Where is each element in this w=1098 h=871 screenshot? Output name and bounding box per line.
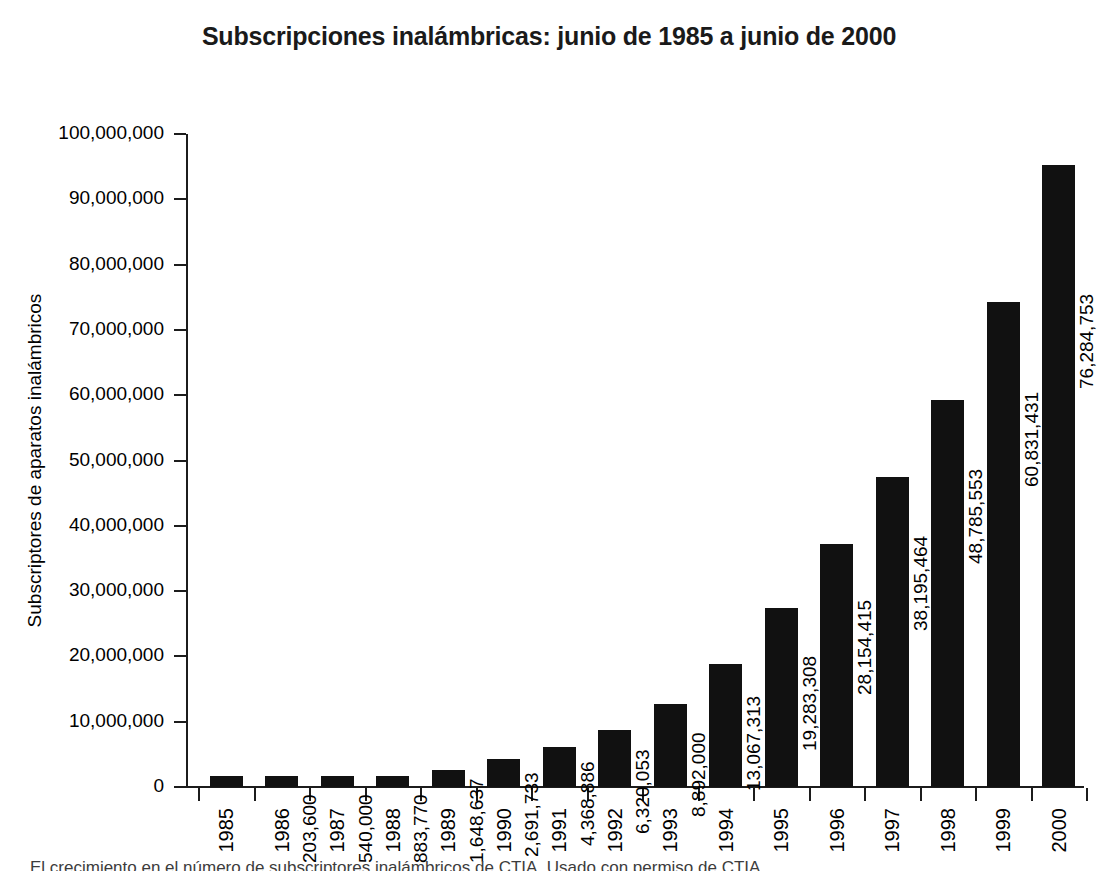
x-axis-tick bbox=[198, 788, 200, 801]
bar-value-label: 48,785,553 bbox=[885, 463, 899, 464]
y-axis-tick bbox=[174, 394, 186, 396]
bar bbox=[265, 776, 298, 787]
y-axis-tick bbox=[174, 590, 186, 592]
chart-figure: Subscripciones inalámbricas: junio de 19… bbox=[0, 0, 1098, 871]
y-axis-tick bbox=[174, 786, 186, 788]
bar-value-label: 883,770 bbox=[330, 762, 344, 763]
bar bbox=[654, 704, 687, 787]
x-axis-tick bbox=[1031, 788, 1033, 801]
y-axis-tick bbox=[174, 721, 186, 723]
bar-value-label: 97,835,925 bbox=[1052, 151, 1066, 152]
bar-value-label: 8,892,000 bbox=[608, 716, 622, 717]
bar bbox=[876, 477, 909, 787]
bar-value-label: 203,600 bbox=[219, 762, 233, 763]
bar bbox=[432, 770, 465, 787]
y-axis-tick bbox=[174, 655, 186, 657]
bar-value-label: 38,195,464 bbox=[830, 530, 844, 531]
bar-value-label: 76,284,753 bbox=[996, 288, 1010, 289]
bar-value-label: 540,000 bbox=[275, 762, 289, 763]
x-axis-tick bbox=[809, 788, 811, 801]
bar bbox=[376, 776, 409, 787]
x-axis-tick bbox=[975, 788, 977, 801]
y-axis-title: Subscriptores de aparatos inalámbricos bbox=[24, 134, 46, 787]
bar bbox=[765, 608, 798, 787]
bar-value-label: 4,368,886 bbox=[497, 745, 511, 746]
bar bbox=[987, 302, 1020, 787]
y-axis-tick bbox=[174, 460, 186, 462]
bar bbox=[321, 776, 354, 787]
y-axis-tick bbox=[174, 525, 186, 527]
bar bbox=[1042, 165, 1075, 787]
bar bbox=[709, 664, 742, 787]
chart-title: Subscripciones inalámbricas: junio de 19… bbox=[0, 22, 1098, 51]
bar bbox=[598, 730, 631, 787]
bar-value-label: 19,283,308 bbox=[719, 650, 733, 651]
y-axis-tick bbox=[174, 264, 186, 266]
bar bbox=[487, 759, 520, 787]
bar bbox=[820, 544, 853, 787]
x-axis-tick bbox=[920, 788, 922, 801]
bar-value-label: 13,067,313 bbox=[663, 690, 677, 691]
y-axis-tick bbox=[174, 133, 186, 135]
bar-value-label: 6,320,053 bbox=[552, 733, 566, 734]
bar-value-label: 28,154,415 bbox=[774, 594, 788, 595]
figure-caption: El crecimiento en el número de subscript… bbox=[30, 858, 1070, 871]
bar-value-label: 1,648,637 bbox=[386, 762, 400, 763]
bar bbox=[931, 400, 964, 787]
x-axis-tick bbox=[1086, 788, 1088, 801]
y-axis-tick bbox=[174, 329, 186, 331]
x-axis-tick bbox=[864, 788, 866, 801]
bar-value-label: 60,831,431 bbox=[941, 386, 955, 387]
bar-value-label: 2,691,733 bbox=[441, 756, 455, 757]
y-axis-line bbox=[186, 134, 188, 788]
bar bbox=[543, 747, 576, 787]
x-axis-tick bbox=[254, 788, 256, 801]
bar bbox=[210, 776, 243, 787]
y-axis-tick bbox=[174, 198, 186, 200]
